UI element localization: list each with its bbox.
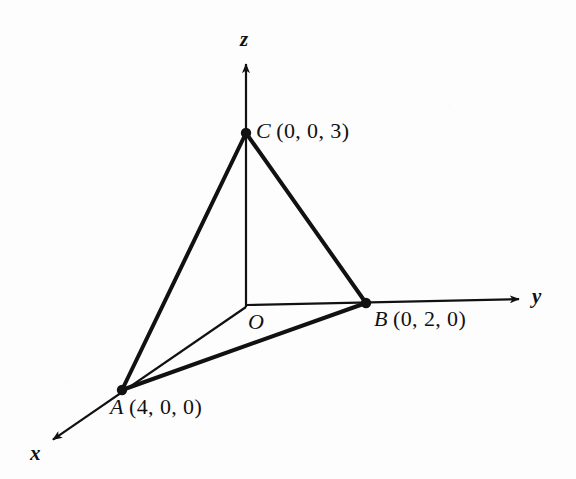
x-axis-line [53,307,246,440]
coordinate-diagram-figure: z y x O C (0, 0, 3) B (0, 2, 0) A (4, 0,… [0,0,576,479]
point-C-dot [241,128,251,138]
point-C-coords: (0, 0, 3) [276,118,349,143]
z-axis-label: z [240,29,248,50]
origin-label: O [248,311,264,333]
vertex-dots-group [117,128,371,395]
edge-CB [246,133,366,303]
triangle-edges-group [122,133,366,390]
diagram-canvas [0,0,576,479]
point-B-label: B (0, 2, 0) [374,308,466,330]
point-A-label: A (4, 0, 0) [110,396,202,418]
point-B-coords: (0, 2, 0) [393,306,466,331]
y-axis-label: y [532,286,541,307]
point-C-name: C [256,118,271,143]
point-A-name: A [110,394,123,419]
point-C-label: C (0, 0, 3) [256,120,349,142]
point-B-dot [361,298,371,308]
point-A-coords: (4, 0, 0) [129,394,202,419]
y-axis-line [246,299,519,305]
point-B-name: B [374,306,387,331]
x-axis-label: x [30,443,41,464]
